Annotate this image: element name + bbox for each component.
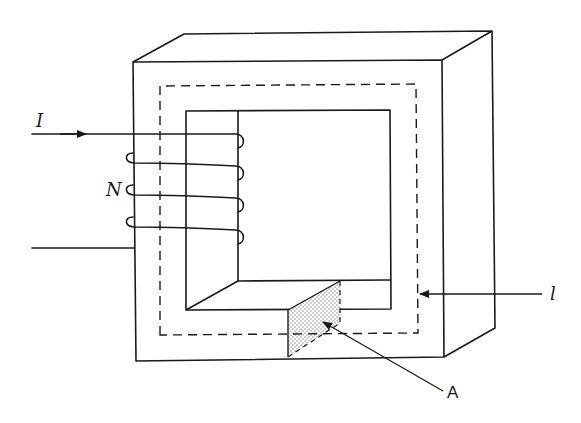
path-length-label: l: [550, 285, 556, 303]
current-label: I: [36, 112, 43, 130]
winding-coil: [32, 134, 243, 248]
mean-magnetic-path: [160, 84, 418, 335]
turns-label: N: [106, 181, 122, 199]
magnetic-circuit-diagram: [0, 0, 581, 423]
cross-section-area: [288, 281, 340, 357]
core-window: [186, 110, 391, 310]
area-label: A: [447, 384, 458, 401]
